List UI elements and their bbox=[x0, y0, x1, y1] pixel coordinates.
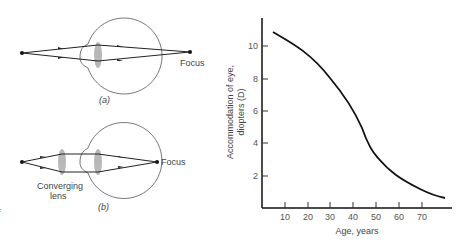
eye-diagram-a: Focus (a) bbox=[20, 18, 205, 105]
caption-a: (a) bbox=[99, 95, 110, 105]
x-tick-label: 70 bbox=[417, 212, 427, 222]
x-tick-label: 30 bbox=[325, 212, 335, 222]
accommodation-curve bbox=[273, 32, 445, 198]
y-axis-label-line2: diopters (D) bbox=[236, 88, 246, 135]
y-ticks: 10 8 6 4 2 bbox=[248, 41, 268, 181]
accommodation-chart: 10 8 6 4 2 10 20 30 40 50 60 70 Age, yea… bbox=[225, 18, 452, 236]
y-axis-label: Accommodation of eye, diopters (D) bbox=[225, 65, 246, 159]
y-tick-label: 4 bbox=[253, 138, 258, 148]
x-tick-label: 50 bbox=[371, 212, 381, 222]
eye-diagram-b: Focus Converging lens (b) bbox=[20, 123, 186, 212]
figure-canvas: Focus (a) Focus Converging lens (b) f 10… bbox=[0, 0, 463, 247]
lens-label-line1: Converging bbox=[37, 181, 83, 191]
lens-label-line2: lens bbox=[50, 191, 67, 201]
y-tick-label: 8 bbox=[253, 74, 258, 84]
eye-lens-icon bbox=[94, 42, 102, 68]
focus-label-a: Focus bbox=[180, 58, 205, 68]
y-tick-label: 6 bbox=[253, 106, 258, 116]
light-ray-upper bbox=[22, 154, 157, 162]
x-ticks: 10 20 30 40 50 60 70 bbox=[280, 202, 427, 222]
caption-b: (b) bbox=[98, 202, 109, 212]
y-axis-label-line1: Accommodation of eye, bbox=[225, 65, 235, 159]
arrow-icon bbox=[58, 47, 64, 59]
focus-label-b: Focus bbox=[161, 157, 186, 167]
y-tick-label: 10 bbox=[248, 41, 258, 51]
arrow-icon bbox=[118, 156, 124, 168]
x-axis-label: Age, years bbox=[335, 226, 379, 236]
light-ray-upper bbox=[22, 45, 190, 53]
x-tick-label: 20 bbox=[303, 212, 313, 222]
x-tick-label: 10 bbox=[280, 212, 290, 222]
light-ray-lower bbox=[22, 52, 190, 61]
edge-text-fragment: f bbox=[0, 208, 1, 218]
x-tick-label: 40 bbox=[348, 212, 358, 222]
light-ray-lower bbox=[22, 162, 157, 172]
y-tick-label: 2 bbox=[253, 171, 258, 181]
x-tick-label: 60 bbox=[394, 212, 404, 222]
